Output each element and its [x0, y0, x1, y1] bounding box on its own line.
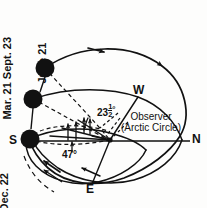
label-equinox-dates: Mar. 21 Sept. 23 [2, 37, 14, 120]
observer-line-1: Observer [130, 111, 171, 122]
observer-point-dot [107, 137, 112, 142]
sun-disk-dec-22 [21, 130, 40, 149]
sun-disk-equinox [24, 90, 43, 109]
dec-22-lower-arc [26, 142, 146, 184]
angle-measure-marks [68, 118, 106, 152]
label-north: N [192, 133, 201, 146]
label-altitude-angle: 47° [62, 150, 77, 161]
sun-path-diagram-figure: Mar. 21 Sept. 23 June 21 Dec. 22 S N W E… [0, 0, 207, 208]
label-dec-22: Dec. 22 [0, 173, 11, 208]
label-axial-tilt: 2312° [97, 103, 116, 119]
observer-line-2: (Arctic Circle) [121, 122, 181, 133]
ray-to-east-point [92, 140, 110, 184]
label-south: S [9, 134, 17, 147]
label-june-21: June 21 [37, 43, 49, 84]
label-observer: Observer (Arctic Circle) [121, 112, 181, 133]
tilt-degree-symbol: ° [112, 105, 115, 114]
label-east: E [86, 183, 94, 196]
cardinal-node-dots [107, 137, 112, 142]
stem-equinox [31, 108, 33, 129]
label-west: W [133, 84, 144, 97]
tilt-whole-number: 23 [97, 107, 108, 118]
